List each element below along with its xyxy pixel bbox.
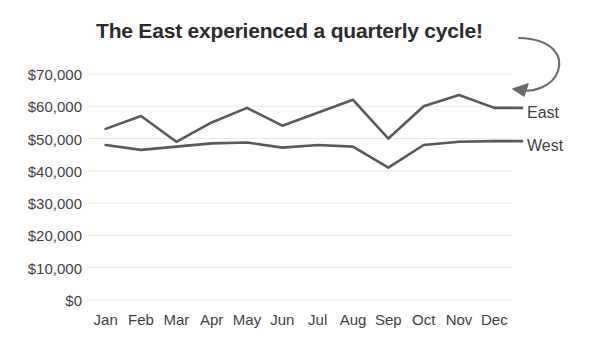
series-label-west: West <box>527 137 563 155</box>
gridlines <box>88 74 512 300</box>
plot-area <box>0 0 595 354</box>
series-label-east: East <box>527 104 559 122</box>
curved-arrow-head-icon <box>513 84 528 96</box>
series-line-west <box>106 141 495 167</box>
annotation-layer <box>513 38 559 96</box>
series-line-east <box>106 95 495 142</box>
line-chart: The East experienced a quarterly cycle! … <box>0 0 595 354</box>
curved-arrow-icon <box>518 38 559 91</box>
